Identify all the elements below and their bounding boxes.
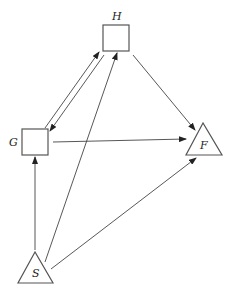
- graph-diagram: H G F S: [0, 0, 235, 288]
- square-shape: [103, 25, 129, 51]
- edge-s-to-f: [51, 158, 196, 269]
- edge-s-to-h: [45, 53, 117, 262]
- node-s-label: S: [32, 267, 40, 280]
- node-f-label: F: [199, 139, 208, 152]
- node-h-label: H: [111, 10, 122, 23]
- node-g-label: G: [9, 136, 18, 149]
- edge-g-to-f: [53, 139, 186, 142]
- edge-h-to-g: [50, 55, 104, 131]
- edge-h-to-f: [133, 55, 195, 130]
- node-h: H: [103, 10, 129, 51]
- square-shape: [22, 129, 48, 155]
- edge-g-to-h: [45, 52, 99, 128]
- node-g: G: [9, 129, 48, 155]
- node-f: F: [186, 123, 222, 155]
- node-s: S: [18, 252, 53, 283]
